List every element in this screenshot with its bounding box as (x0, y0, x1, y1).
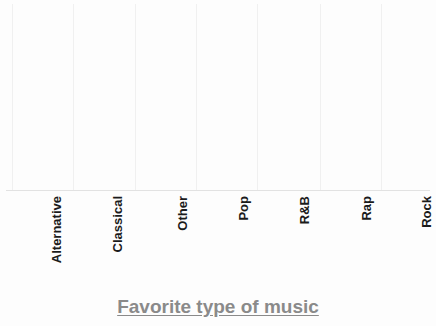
gridline (73, 4, 74, 190)
category-label-pop: Pop (236, 196, 252, 286)
plot-area (0, 0, 436, 192)
dot-plot-chart: AlternativeClassicalOtherPopR&BRapRock F… (0, 0, 436, 326)
gridline (12, 4, 13, 190)
gridline (257, 4, 258, 190)
x-axis-title: Favorite type of music (0, 296, 436, 318)
gridline (381, 4, 382, 190)
gridline (135, 4, 136, 190)
category-label-rap: Rap (359, 196, 375, 286)
category-label-r-b: R&B (297, 196, 313, 286)
category-label-classical: Classical (110, 196, 126, 286)
category-label-other: Other (175, 196, 191, 286)
x-axis-baseline (6, 190, 430, 191)
category-label-alternative: Alternative (49, 196, 65, 286)
category-label-rock: Rock (419, 196, 435, 286)
gridline (196, 4, 197, 190)
gridline (320, 4, 321, 190)
